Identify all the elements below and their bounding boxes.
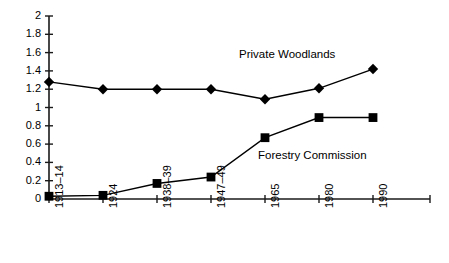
- data-point-diamond: [368, 64, 378, 74]
- data-point-diamond: [314, 83, 324, 93]
- series-label-forestry-commission: Forestry Commission: [258, 149, 367, 161]
- data-point-diamond: [260, 94, 270, 104]
- y-axis-tick-label: 0.6: [0, 138, 41, 149]
- data-point-square: [261, 133, 270, 142]
- y-axis-tick-label: 0: [0, 193, 41, 204]
- x-axis-tick-label: 1980: [324, 184, 335, 208]
- y-axis-tick-label: 2: [0, 10, 41, 21]
- data-point-diamond: [152, 84, 162, 94]
- x-axis-tick-label: 1965: [270, 184, 281, 208]
- y-axis-tick-label: 1.8: [0, 28, 41, 39]
- x-axis-tick-label: 1913–14: [54, 165, 65, 208]
- data-point-diamond: [206, 84, 216, 94]
- x-axis-tick-label: 1924: [108, 184, 119, 208]
- data-point-square: [315, 113, 324, 122]
- x-axis-tick-label: 1947–49: [216, 165, 227, 208]
- series-label-private-woodlands: Private Woodlands: [239, 48, 335, 60]
- y-axis-tick-label: 0.4: [0, 156, 41, 167]
- x-axis-tick-label: 1990: [378, 184, 389, 208]
- data-point-diamond: [44, 77, 54, 87]
- chart-series-private-woodlands: [44, 64, 378, 105]
- y-axis-tick-label: 1.4: [0, 65, 41, 76]
- y-axis-tick-label: 1.2: [0, 83, 41, 94]
- chart-container: 00.20.40.60.811.21.41.61.82 1913–1419241…: [0, 0, 449, 263]
- y-axis-tick-label: 0.2: [0, 175, 41, 186]
- chart-axes: [49, 16, 430, 199]
- chart-plot-area: [0, 0, 449, 263]
- y-axis-tick-label: 0.8: [0, 120, 41, 131]
- y-axis-tick-label: 1: [0, 102, 41, 113]
- data-point-diamond: [98, 84, 108, 94]
- x-axis-tick-label: 1938–39: [162, 165, 173, 208]
- chart-series-group: [44, 64, 378, 201]
- data-point-square: [369, 113, 378, 122]
- y-axis-tick-label: 1.6: [0, 47, 41, 58]
